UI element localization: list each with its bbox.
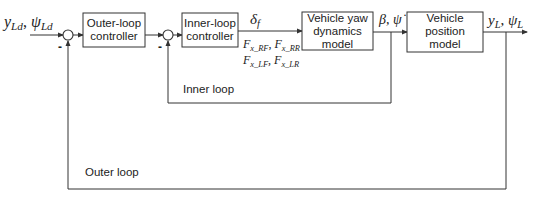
- f-rf-sub: x_RF: [250, 44, 268, 53]
- delta: δ: [250, 11, 257, 27]
- inner-controller-label: Inner-loop controller: [182, 17, 238, 43]
- position-model-line1: Vehicle: [407, 12, 483, 25]
- delta-sub: f: [257, 18, 260, 29]
- out-psi-sub: L: [517, 19, 523, 30]
- reference-signal-label: yLd, ψLd: [4, 13, 53, 32]
- yaw-model-line3: model: [302, 38, 373, 51]
- f-rr-sub: x_RR: [282, 44, 300, 53]
- ref-psi: ψ: [31, 13, 41, 30]
- f-lr-sub: x_LR: [281, 60, 299, 69]
- inner-controller-line2: controller: [182, 30, 238, 43]
- f-lf-sub: x_LF: [250, 60, 268, 69]
- yaw-model-label: Vehicle yaw dynamics model: [302, 12, 373, 51]
- inner-sum-junction: [163, 30, 173, 40]
- steer-angle-label: δf: [250, 11, 260, 29]
- inner-sum-minus-sign: -: [158, 40, 162, 54]
- control-block-diagram: Outer-loop controller Inner-loop control…: [0, 0, 544, 199]
- position-model-line3: model: [407, 38, 483, 51]
- outer-controller-label: Outer-loop controller: [83, 17, 145, 43]
- f-rr: F: [274, 37, 281, 51]
- outer-controller-line1: Outer-loop: [83, 17, 145, 30]
- output-signal-label: yL, ψL: [488, 12, 523, 30]
- ref-psi-sub: Ld: [41, 20, 53, 32]
- forces-row2-label: Fx_LF, Fx_LR: [243, 53, 299, 69]
- out-psi: ψ: [508, 12, 517, 28]
- ref-y-sub: Ld: [11, 20, 23, 32]
- position-model-label: Vehicle position model: [407, 12, 483, 51]
- outer-loop-label: Outer loop: [85, 166, 139, 178]
- outer-sum-minus-sign: -: [58, 40, 62, 54]
- position-model-line2: position: [407, 25, 483, 38]
- inner-controller-line1: Inner-loop: [182, 17, 238, 30]
- forces-row1-label: Fx_RF, Fx_RR: [243, 37, 300, 53]
- outer-sum-junction: [63, 30, 73, 40]
- yaw-states-label: β, ψ̇: [379, 12, 402, 28]
- yaw-model-line2: dynamics: [302, 25, 373, 38]
- outer-controller-line2: controller: [83, 30, 145, 43]
- yaw-model-line1: Vehicle yaw: [302, 12, 373, 25]
- inner-loop-label: Inner loop: [183, 83, 234, 95]
- out-y: y: [488, 12, 495, 28]
